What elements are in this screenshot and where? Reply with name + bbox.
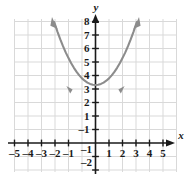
y-tick-label: 7: [84, 29, 90, 41]
y-axis: [92, 14, 99, 174]
y-tick-label: 4: [84, 69, 90, 81]
x-tick-label: 2: [120, 147, 126, 159]
y-axis-label: y: [92, 1, 99, 13]
y-tick-label: 8: [84, 15, 90, 27]
y-tick-label-negative-one: –1: [80, 143, 92, 155]
y-axis-tick-labels: 8 7 6 5 4 3 2 1 –1 –1 –2: [78, 15, 93, 168]
x-tick-label: –3: [35, 147, 48, 159]
y-tick-label: 2: [84, 96, 90, 108]
x-tick-label: –1: [62, 147, 74, 159]
y-tick-label: 1: [84, 110, 90, 122]
x-axis-label: x: [177, 129, 184, 141]
graph-figure: –5 –4 –3 –2 –1 1 2 3 4 5 8 7 6 5 4 3 2 1…: [0, 0, 191, 177]
x-tick-label: 1: [106, 147, 112, 159]
y-tick-label: –1: [78, 123, 90, 135]
x-tick-label: –4: [22, 147, 35, 159]
y-tick-label: 5: [84, 56, 90, 68]
x-tick-label: 4: [147, 147, 153, 159]
y-tick-label: 6: [84, 42, 90, 54]
coordinate-plane: –5 –4 –3 –2 –1 1 2 3 4 5 8 7 6 5 4 3 2 1…: [0, 0, 191, 177]
y-tick-label: 3: [84, 83, 90, 95]
x-axis-arrowhead: [166, 139, 175, 146]
x-tick-label: –5: [8, 147, 21, 159]
x-tick-label: 3: [133, 147, 139, 159]
curve-right-arrowhead: [133, 17, 140, 29]
curve-left-arrowhead: [50, 17, 57, 29]
x-tick-label: 5: [160, 147, 166, 159]
curve-left-direction-marker: [66, 86, 72, 94]
curve-right-direction-marker: [118, 86, 124, 94]
x-tick-label: –2: [49, 147, 62, 159]
y-tick-label-negative-two: –2: [80, 156, 93, 168]
